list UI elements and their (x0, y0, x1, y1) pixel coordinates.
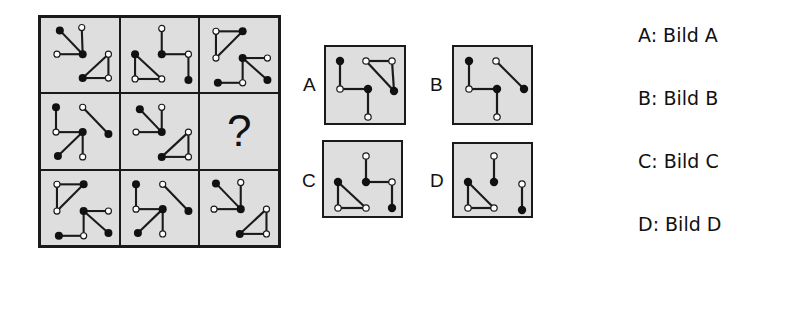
option-figure-a[interactable] (324, 45, 406, 125)
figure-drawing (454, 144, 531, 216)
open-node (132, 76, 138, 82)
filled-node (362, 178, 370, 186)
matrix-cell-1-1 (40, 17, 120, 93)
matrix-cell-1-3 (199, 17, 279, 93)
filled-node (336, 57, 344, 65)
open-node (363, 58, 369, 64)
filled-node (184, 76, 192, 84)
figure-drawing (454, 47, 531, 123)
option-figure-b[interactable] (452, 45, 533, 125)
open-node (238, 179, 244, 185)
open-node (158, 105, 164, 111)
open-node (105, 208, 111, 214)
filled-node (464, 178, 472, 186)
figure-drawing (121, 94, 199, 168)
open-node (213, 55, 219, 61)
open-node (54, 51, 60, 57)
open-node (213, 28, 219, 34)
filled-node (237, 205, 245, 213)
option-figure-c[interactable] (322, 140, 403, 218)
filled-node (157, 128, 165, 136)
answer-choice-b[interactable]: B: Bild B (638, 85, 721, 148)
option-figure-d[interactable] (452, 142, 533, 218)
open-node (185, 129, 191, 135)
filled-node (79, 74, 87, 82)
open-node (158, 25, 164, 31)
open-node (265, 55, 271, 61)
answer-choice-a[interactable]: A: Bild A (638, 22, 721, 85)
filled-node (490, 178, 498, 186)
open-node (337, 86, 343, 92)
filled-node (158, 205, 166, 213)
open-node (54, 208, 60, 214)
answer-choice-c[interactable]: C: Bild C (638, 148, 721, 211)
matrix-cell-3-3 (199, 170, 279, 246)
filled-node (135, 106, 143, 114)
open-node (54, 181, 60, 187)
open-node (53, 129, 59, 135)
filled-node (388, 204, 396, 212)
filled-node (157, 153, 165, 161)
open-node (465, 205, 471, 211)
filled-node (80, 180, 88, 188)
filled-node (134, 229, 142, 237)
filled-node (104, 130, 112, 138)
filled-node (364, 85, 372, 93)
figure-drawing (41, 171, 119, 245)
matrix-cell-1-2 (120, 17, 200, 93)
open-node (105, 75, 111, 81)
filled-node (214, 79, 222, 87)
filled-node (132, 180, 140, 188)
figure-drawing (200, 171, 278, 245)
answer-choice-d[interactable]: D: Bild D (638, 211, 721, 274)
matrix-cell-3-2 (120, 170, 200, 246)
open-node (365, 114, 371, 120)
open-node (158, 76, 164, 82)
filled-node (493, 85, 501, 93)
missing-cell-question-mark: ? (200, 94, 278, 168)
filled-node (334, 178, 342, 186)
figure-drawing (41, 18, 119, 92)
open-node (240, 80, 246, 86)
filled-node (239, 54, 247, 62)
filled-node (239, 27, 247, 35)
filled-node (184, 207, 192, 215)
figure-drawing (326, 47, 404, 123)
filled-node (157, 50, 165, 58)
open-node (105, 51, 111, 57)
filled-node (54, 152, 62, 160)
open-node (494, 114, 500, 120)
option-letter-c: C (302, 170, 316, 192)
filled-node (52, 104, 60, 112)
open-node (466, 86, 472, 92)
open-node (159, 181, 165, 187)
matrix-cell-2-3: ? (199, 93, 279, 169)
figure-drawing (121, 171, 199, 245)
figure-drawing (324, 142, 401, 216)
filled-node (264, 76, 272, 84)
filled-node (131, 50, 139, 58)
matrix-cell-3-1 (40, 170, 120, 246)
filled-node (56, 26, 64, 34)
open-node (389, 179, 395, 185)
option-letter-b: B (430, 74, 443, 96)
open-node (185, 154, 191, 160)
matrix-cell-2-2 (120, 93, 200, 169)
filled-node (55, 231, 63, 239)
filled-node (79, 50, 87, 58)
filled-node (465, 57, 473, 65)
open-node (389, 58, 395, 64)
open-node (264, 206, 270, 212)
filled-node (80, 207, 88, 215)
option-letter-d: D (430, 170, 444, 192)
open-node (264, 231, 270, 237)
open-node (519, 181, 525, 187)
open-node (159, 231, 165, 237)
figure-drawing (41, 94, 119, 168)
open-node (493, 58, 499, 64)
open-node (81, 232, 87, 238)
open-node (185, 51, 191, 57)
option-letter-a: A (303, 74, 316, 96)
filled-node (520, 85, 528, 93)
open-node (79, 24, 85, 30)
